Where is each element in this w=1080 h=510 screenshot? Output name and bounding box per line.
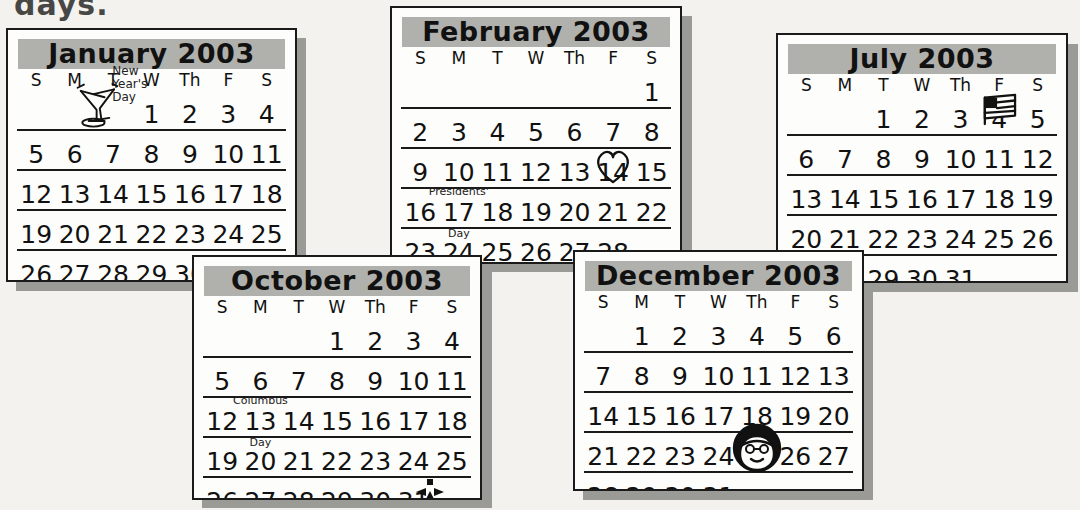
calendar-day-cell[interactable]: 22 bbox=[318, 437, 356, 477]
calendar-day-cell[interactable]: 18 bbox=[433, 397, 471, 437]
calendar-day-cell[interactable]: 5 bbox=[17, 130, 55, 170]
calendar-day-cell[interactable]: 1 bbox=[632, 69, 671, 108]
calendar-day-cell[interactable]: 11 bbox=[980, 135, 1019, 175]
calendar-day-cell[interactable]: 16 bbox=[903, 175, 942, 215]
calendar-day-cell[interactable]: 12 bbox=[1018, 135, 1057, 175]
calendar-day-cell[interactable]: 30 bbox=[356, 477, 394, 500]
calendar-day-cell[interactable]: 9 bbox=[903, 135, 942, 175]
calendar-day-cell[interactable]: 26 bbox=[776, 432, 814, 472]
calendar-day-cell[interactable]: 16 bbox=[356, 397, 394, 437]
calendar-day-cell[interactable]: 20 bbox=[241, 437, 279, 477]
calendar-day-cell[interactable]: 9 bbox=[401, 148, 440, 188]
calendar-day-cell[interactable]: 8 bbox=[622, 352, 660, 392]
calendar-day-cell[interactable]: 2 bbox=[171, 91, 209, 130]
calendar-day-cell[interactable]: 26 bbox=[203, 477, 241, 500]
calendar-day-cell[interactable]: 22 bbox=[632, 188, 671, 228]
calendar-day-cell[interactable]: 23 bbox=[171, 210, 209, 250]
calendar-day-cell[interactable]: 5 bbox=[517, 108, 556, 148]
calendar-day-cell[interactable]: 1 bbox=[318, 318, 356, 357]
calendar-card-february[interactable]: February 2003SMTWThFS1234567891011121314… bbox=[390, 6, 682, 264]
calendar-day-cell[interactable]: ColumbusDay13 bbox=[241, 397, 279, 437]
calendar-day-cell[interactable]: 2 bbox=[903, 96, 942, 135]
calendar-day-cell[interactable]: 13 bbox=[815, 352, 853, 392]
calendar-day-cell[interactable]: 18 bbox=[738, 392, 776, 432]
calendar-day-cell[interactable]: 15 bbox=[864, 175, 903, 215]
calendar-day-cell[interactable]: 19 bbox=[776, 392, 814, 432]
calendar-day-cell[interactable]: 25 bbox=[980, 215, 1019, 255]
calendar-day-cell[interactable]: 16 bbox=[171, 170, 209, 210]
calendar-day-cell[interactable]: 18 bbox=[248, 170, 286, 210]
calendar-day-cell[interactable]: 20 bbox=[55, 210, 93, 250]
calendar-day-cell[interactable]: 17 bbox=[941, 175, 980, 215]
calendar-day-cell[interactable]: 21 bbox=[94, 210, 132, 250]
calendar-day-cell[interactable]: 4 bbox=[248, 91, 286, 130]
calendar-day-cell[interactable]: 6 bbox=[55, 130, 93, 170]
calendar-day-cell[interactable]: 20 bbox=[815, 392, 853, 432]
calendar-day-cell[interactable]: 6 bbox=[815, 313, 853, 352]
calendar-day-cell[interactable]: 25 bbox=[478, 228, 517, 264]
calendar-day-cell[interactable]: 28 bbox=[94, 250, 132, 282]
calendar-day-cell[interactable]: 19 bbox=[1018, 175, 1057, 215]
calendar-day-cell[interactable]: 14 bbox=[584, 392, 622, 432]
calendar-day-cell[interactable]: 29 bbox=[622, 472, 660, 491]
calendar-day-cell[interactable]: 7 bbox=[584, 352, 622, 392]
calendar-day-cell[interactable]: 22 bbox=[622, 432, 660, 472]
calendar-day-cell[interactable]: 7 bbox=[594, 108, 633, 148]
calendar-day-cell[interactable]: 7 bbox=[280, 357, 318, 397]
calendar-day-cell[interactable]: 19 bbox=[17, 210, 55, 250]
calendar-day-cell[interactable]: 26 bbox=[17, 250, 55, 282]
calendar-day-cell[interactable]: 19 bbox=[203, 437, 241, 477]
calendar-day-cell[interactable]: 30 bbox=[903, 255, 942, 283]
calendar-day-cell[interactable]: 23 bbox=[661, 432, 699, 472]
calendar-card-july[interactable]: July 2003SMTWThFS12345678910111213141516… bbox=[776, 33, 1068, 283]
calendar-day-cell[interactable]: 21 bbox=[594, 188, 633, 228]
calendar-day-cell[interactable]: 14 bbox=[94, 170, 132, 210]
calendar-day-cell[interactable]: 24 bbox=[699, 432, 737, 472]
calendar-day-cell[interactable]: 28 bbox=[584, 472, 622, 491]
calendar-day-cell[interactable]: 8 bbox=[132, 130, 170, 170]
calendar-day-cell[interactable]: 10 bbox=[699, 352, 737, 392]
calendar-day-cell[interactable]: 26 bbox=[1018, 215, 1057, 255]
calendar-day-cell[interactable]: 2 bbox=[356, 318, 394, 357]
calendar-day-cell[interactable]: 25 bbox=[433, 437, 471, 477]
calendar-day-cell[interactable]: 4 bbox=[738, 313, 776, 352]
calendar-day-cell[interactable]: 17 bbox=[699, 392, 737, 432]
calendar-day-cell[interactable]: 31 bbox=[941, 255, 980, 283]
calendar-day-cell[interactable]: 13 bbox=[787, 175, 826, 215]
calendar-day-cell[interactable]: 3 bbox=[440, 108, 479, 148]
calendar-day-cell[interactable]: 23 bbox=[356, 437, 394, 477]
calendar-day-cell[interactable]: 9 bbox=[661, 352, 699, 392]
calendar-day-cell[interactable]: 24 bbox=[941, 215, 980, 255]
calendar-day-cell[interactable]: 20 bbox=[555, 188, 594, 228]
calendar-card-december[interactable]: December 2003SMTWThFS1234567891011121314… bbox=[573, 250, 864, 491]
calendar-day-cell[interactable]: 24 bbox=[394, 437, 432, 477]
calendar-day-cell[interactable]: 10 bbox=[394, 357, 432, 397]
calendar-day-cell[interactable]: 5 bbox=[1018, 96, 1057, 135]
calendar-day-cell[interactable]: 15 bbox=[318, 397, 356, 437]
calendar-day-cell[interactable]: 27 bbox=[241, 477, 279, 500]
calendar-day-cell[interactable]: 11 bbox=[478, 148, 517, 188]
calendar-day-cell[interactable]: 28 bbox=[280, 477, 318, 500]
calendar-day-cell[interactable]: 22 bbox=[864, 215, 903, 255]
calendar-card-january[interactable]: January 2003SMTWThFSNewYear'sDay12345678… bbox=[6, 28, 297, 282]
calendar-day-cell[interactable]: 6 bbox=[787, 135, 826, 175]
calendar-day-cell[interactable]: 8 bbox=[632, 108, 671, 148]
calendar-day-cell[interactable]: 19 bbox=[517, 188, 556, 228]
calendar-day-cell[interactable]: 15 bbox=[132, 170, 170, 210]
calendar-day-cell[interactable]: 13 bbox=[55, 170, 93, 210]
calendar-day-cell[interactable]: 5 bbox=[776, 313, 814, 352]
calendar-day-cell[interactable]: 9 bbox=[356, 357, 394, 397]
calendar-day-cell[interactable]: 8 bbox=[864, 135, 903, 175]
calendar-day-cell[interactable]: 24 bbox=[209, 210, 247, 250]
calendar-day-cell[interactable]: 5 bbox=[203, 357, 241, 397]
calendar-day-cell[interactable]: 27 bbox=[815, 432, 853, 472]
calendar-day-cell[interactable]: 14 bbox=[280, 397, 318, 437]
calendar-day-cell[interactable]: 29 bbox=[318, 477, 356, 500]
calendar-day-cell[interactable]: 27 bbox=[55, 250, 93, 282]
calendar-day-cell[interactable]: 10 bbox=[941, 135, 980, 175]
calendar-day-cell[interactable]: 10 bbox=[209, 130, 247, 170]
calendar-day-cell[interactable]: 12 bbox=[776, 352, 814, 392]
calendar-day-cell[interactable]: 22 bbox=[132, 210, 170, 250]
calendar-day-cell[interactable]: Presidents'Day17 bbox=[440, 188, 479, 228]
calendar-day-cell[interactable]: 11 bbox=[433, 357, 471, 397]
